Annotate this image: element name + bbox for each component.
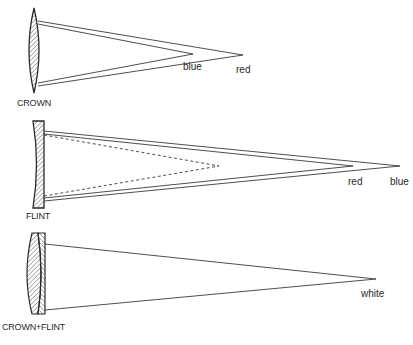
lens-label-crown: CROWN bbox=[17, 98, 51, 108]
panel-crown-flint: white CROWN+FLINT bbox=[2, 233, 385, 332]
red-rays bbox=[38, 21, 243, 86]
focus-label-blue: blue bbox=[183, 61, 202, 72]
panel-crown: blue red CROWN bbox=[17, 8, 250, 108]
focus-label-white: white bbox=[360, 288, 385, 299]
focus-label-red: red bbox=[236, 64, 250, 75]
focus-label-red: red bbox=[348, 176, 362, 187]
diagram-canvas: blue red CROWN red blue bbox=[0, 0, 413, 345]
panel-flint: red blue FLINT bbox=[26, 121, 409, 221]
virtual-rays bbox=[44, 135, 219, 196]
blue-rays bbox=[44, 131, 400, 201]
achromatic-lens-diagram: blue red CROWN red blue bbox=[0, 0, 413, 345]
lens-label-crown-flint: CROWN+FLINT bbox=[2, 322, 66, 332]
lens-label-flint: FLINT bbox=[26, 211, 51, 221]
flint-lens-icon bbox=[33, 121, 44, 208]
crown-lens-icon bbox=[29, 8, 39, 93]
doublet-crown-element-icon bbox=[27, 233, 41, 314]
focus-label-blue: blue bbox=[390, 176, 409, 187]
white-rays bbox=[45, 244, 376, 310]
